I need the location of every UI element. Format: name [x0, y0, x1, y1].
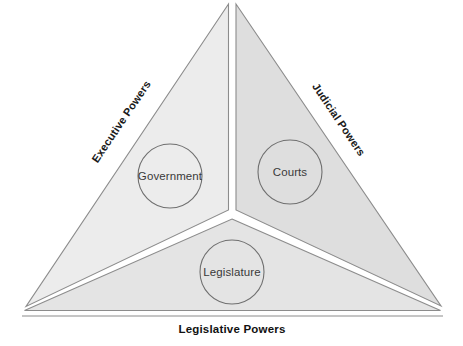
- legislature-label: Legislature: [203, 266, 260, 278]
- separation-of-powers-diagram: Government Courts Legislature Executive …: [0, 0, 463, 346]
- legislative-powers-label: Legislative Powers: [178, 323, 285, 335]
- courts-label: Courts: [273, 166, 308, 178]
- triangle-svg: Government Courts Legislature Executive …: [0, 0, 463, 346]
- government-label: Government: [138, 170, 203, 182]
